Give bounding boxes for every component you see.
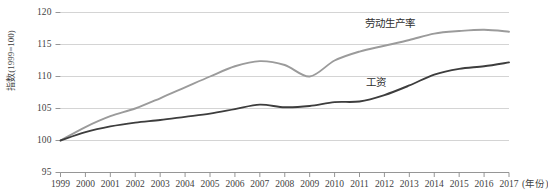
y-axis-title: 指数(1999=100): [7, 11, 16, 111]
y-axis-tick-label: 95: [26, 168, 52, 178]
series-label-productivity: 劳动生产率: [365, 18, 415, 29]
series-label-wages: 工资: [366, 77, 386, 88]
series-line-wages: [61, 62, 510, 140]
y-axis-tick-label: 110: [26, 72, 52, 82]
x-axis-unit-label: (年份): [522, 179, 548, 189]
y-axis-tick-label: 100: [26, 136, 52, 146]
series-lines-group: [61, 30, 510, 141]
y-axis-tick-label: 120: [26, 8, 52, 18]
y-axis-tick-label: 115: [26, 40, 52, 50]
gridlines-group: [56, 13, 510, 173]
x-axis-ticks-group: [61, 173, 510, 178]
y-axis-tick-label: 105: [26, 104, 52, 114]
